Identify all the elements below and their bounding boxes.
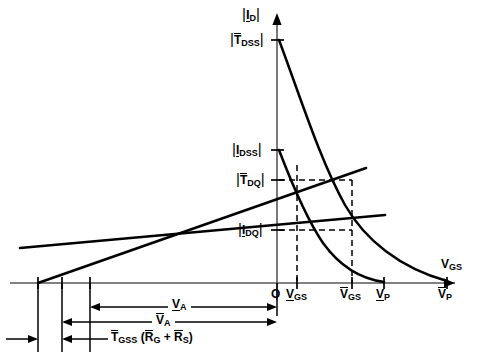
bias-load-line-upper [38, 168, 366, 283]
figure-canvas: |ID| |TDSS| |IDSS| |TDQ| |IDQ| O VGS VGS… [0, 0, 479, 357]
x-axis-title: VGS [441, 258, 462, 270]
bias-load-line-lower [20, 215, 385, 248]
x-tick-label-vp-max: VP [438, 287, 452, 300]
y-tick-label-idss-max: |TDSS| [230, 31, 264, 46]
y-axis-arrowhead [272, 13, 281, 25]
y-tick-label-idq-max: |TDQ| [236, 171, 265, 186]
dimension-arrow-tgss [62, 335, 108, 343]
x-tick-label-vgs-max: VGS [340, 287, 361, 300]
x-axis-group [10, 278, 455, 287]
dimension-label-va-max: VA [152, 313, 175, 326]
dimension-arrow-leftmost [6, 335, 38, 343]
x-tick-label-vgs-min: VGS [286, 288, 307, 301]
y-axis-title: |ID| [242, 6, 260, 22]
y-tick-label-idss-min: |IDSS| [232, 141, 262, 157]
dimension-label-tgss: TGSS (RG + RS) [111, 330, 193, 343]
x-tick-label-vp-min: VP [376, 288, 390, 301]
dimension-label-va-min: VA [168, 298, 191, 311]
origin-label: O [271, 288, 280, 300]
transfer-curve-max [279, 40, 447, 281]
y-tick-label-idq-min: |IDQ| [238, 221, 263, 237]
y-axis-title-symbol: I [246, 8, 250, 22]
